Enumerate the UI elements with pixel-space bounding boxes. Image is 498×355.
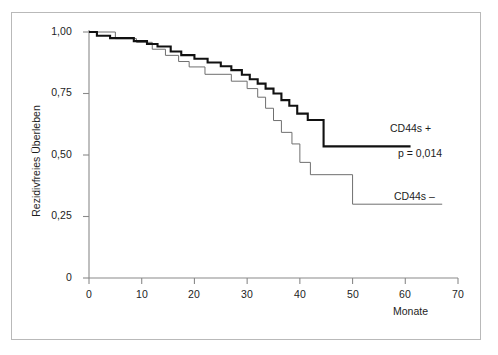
x-axis-ticks [89, 278, 458, 284]
x-tick-label-10: 10 [127, 288, 157, 300]
plot-canvas [0, 0, 498, 355]
y-tick-label-025: 0,25 [38, 209, 72, 221]
y-axis-title: Rezidivfreies Überleben [30, 66, 42, 256]
x-tick-label-70: 70 [443, 288, 473, 300]
y-tick-label-075: 0,75 [38, 86, 72, 98]
x-tick-label-60: 60 [390, 288, 420, 300]
x-axis-title: Monate [393, 305, 428, 317]
series-line-cd44s-minus [89, 32, 442, 204]
x-tick-label-40: 40 [285, 288, 315, 300]
p-value-label: p = 0,014 [398, 147, 442, 159]
x-tick-label-0: 0 [74, 288, 104, 300]
figure-container: 1,00 0,75 0,50 0,25 0 0 10 20 30 40 50 6… [0, 0, 498, 355]
series-group [89, 32, 442, 204]
y-tick-label-0: 0 [38, 271, 72, 283]
curve-label-cd44s-plus: CD44s + [390, 122, 431, 134]
x-tick-label-30: 30 [232, 288, 262, 300]
y-axis-ticks [83, 32, 89, 278]
x-tick-label-20: 20 [179, 288, 209, 300]
y-tick-label-050: 0,50 [38, 148, 72, 160]
x-tick-label-50: 50 [338, 288, 368, 300]
series-line-cd44s-plus [89, 32, 411, 146]
y-tick-label-1: 1,00 [38, 25, 72, 37]
curve-label-cd44s-minus: CD44s – [394, 190, 435, 202]
